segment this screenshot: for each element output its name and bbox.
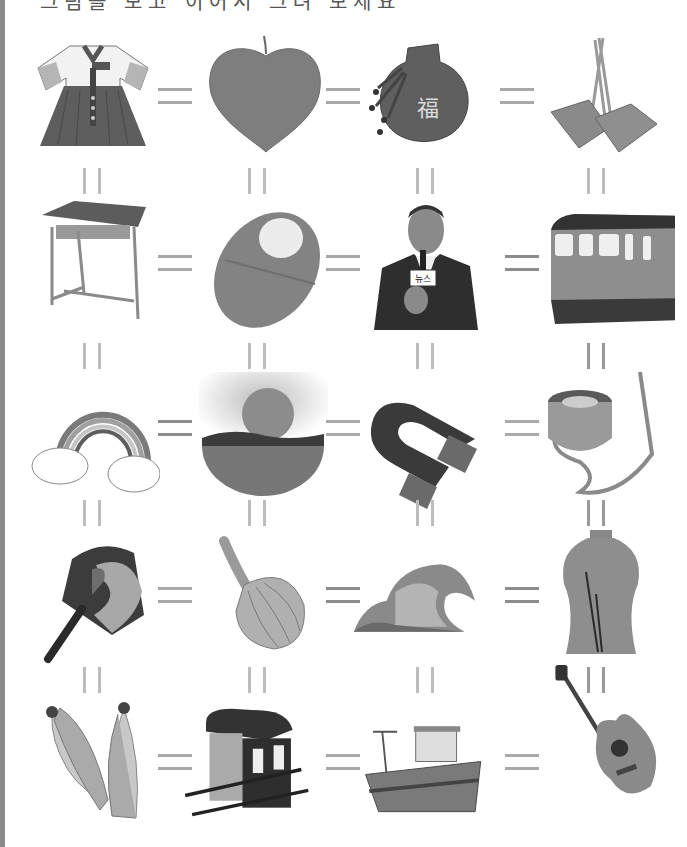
onion-icon — [208, 535, 338, 665]
mic-label: 뉴스 — [415, 274, 431, 284]
equals-connector — [158, 253, 192, 273]
taeguk-fan-cell[interactable] — [42, 535, 172, 665]
fishing-boat-cell[interactable] — [360, 690, 490, 820]
palanquin-icon — [180, 695, 310, 825]
parallel-connector — [416, 500, 434, 526]
parallel-connector — [83, 500, 101, 526]
hanbok-icon — [28, 28, 158, 158]
pouch-icon: 福 — [358, 28, 488, 158]
wave-icon — [352, 540, 482, 670]
equals-connector — [326, 86, 360, 106]
sunset-icon — [198, 372, 328, 502]
celadon-vase-cell[interactable] — [540, 530, 670, 660]
guitar-cell[interactable] — [545, 665, 675, 795]
scoop-basket-cell[interactable] — [545, 28, 675, 158]
canteen-cell[interactable] — [540, 368, 670, 498]
equals-connector — [500, 86, 534, 106]
parallel-connector — [83, 168, 101, 194]
parallel-connector — [416, 343, 434, 369]
left-edge-strip — [0, 0, 5, 847]
parallel-connector — [416, 168, 434, 194]
magnet-cell[interactable] — [365, 385, 495, 515]
parallel-connector — [248, 500, 266, 526]
desk-icon — [38, 195, 168, 325]
equals-connector — [505, 585, 539, 605]
boat-icon — [360, 690, 490, 820]
wave-cell[interactable] — [352, 540, 482, 670]
news-reporter-cell[interactable]: 뉴스 — [370, 200, 500, 330]
corn-cell[interactable] — [32, 700, 162, 830]
equals-connector — [326, 253, 360, 273]
parallel-connector — [83, 343, 101, 369]
palanquin-cell[interactable] — [180, 695, 310, 825]
fan-icon — [42, 535, 172, 665]
parallel-connector — [587, 500, 605, 526]
lucky-pouch-cell[interactable]: 福 — [358, 28, 488, 158]
equals-connector — [158, 86, 192, 106]
basket-icon — [545, 28, 675, 158]
swaddled-baby-cell[interactable] — [205, 200, 335, 330]
school-desk-cell[interactable] — [38, 195, 168, 325]
canteen-icon — [540, 368, 670, 498]
peach-icon — [200, 28, 330, 158]
reporter-icon: 뉴스 — [370, 200, 500, 330]
equals-connector — [158, 418, 192, 438]
parallel-connector — [248, 168, 266, 194]
corn-icon — [32, 700, 162, 830]
peach-cell[interactable] — [200, 28, 330, 158]
rainbow-icon — [30, 378, 160, 508]
vase-icon — [540, 530, 670, 660]
equals-connector — [326, 418, 360, 438]
magnet-icon — [365, 385, 495, 515]
guitar-icon — [545, 665, 675, 795]
baby-icon — [205, 200, 335, 330]
rainbow-cell[interactable] — [30, 378, 160, 508]
page-title: 그림을 보고 이어서 그려 보세요 — [40, 0, 401, 15]
equals-connector — [505, 752, 539, 772]
sunset-sea-cell[interactable] — [198, 372, 328, 502]
parallel-connector — [587, 168, 605, 194]
equals-connector — [505, 253, 539, 273]
parallel-connector — [83, 667, 101, 693]
parallel-connector — [587, 343, 605, 369]
equals-connector — [158, 585, 192, 605]
equals-connector — [326, 752, 360, 772]
equals-connector — [505, 418, 539, 438]
parallel-connector — [248, 343, 266, 369]
onion-cell[interactable] — [208, 535, 338, 665]
train-cell[interactable] — [545, 200, 675, 330]
train-icon — [545, 200, 675, 330]
hanbok-cell[interactable] — [28, 28, 158, 158]
pouch-character: 福 — [417, 96, 439, 121]
parallel-connector — [248, 667, 266, 693]
